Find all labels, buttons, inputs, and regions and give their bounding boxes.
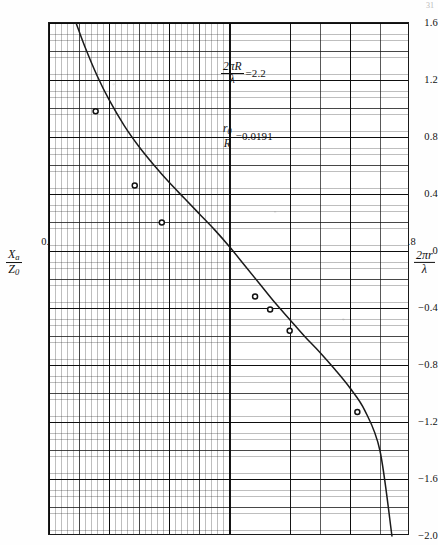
annotation-r0-fraction: r0 R: [221, 123, 234, 149]
plot-area: 2πR λ =2.2 r0 R =0.0191: [48, 22, 409, 535]
y-axis-title-denominator: Z0: [6, 263, 22, 278]
data-point: [159, 220, 164, 225]
measured-points-group: [93, 109, 360, 415]
figure-container: 31 1.61.20.80.40−0.4−0.8−1.2−1.6−2.0 Xa …: [0, 0, 438, 545]
annotation-r0-value: =0.0191: [236, 130, 273, 142]
data-layer: [49, 23, 410, 536]
x-axis-title-denominator: λ: [414, 262, 435, 276]
y-axis-title: Xa Z0: [6, 248, 22, 278]
data-point: [287, 328, 292, 333]
annotation-r0: r0 R =0.0191: [221, 123, 273, 149]
data-point: [93, 109, 98, 114]
annotation-ka-fraction: 2πR λ: [221, 61, 244, 85]
y-axis-title-numerator: Xa: [6, 248, 22, 262]
page-number: 31: [426, 1, 434, 10]
data-point: [355, 410, 360, 415]
theoretical-curve: [76, 23, 392, 536]
annotation-ka-value: =2.2: [246, 67, 266, 79]
data-point: [268, 307, 273, 312]
annotation-ka: 2πR λ =2.2: [221, 61, 266, 85]
x-axis-title: 2πr λ: [414, 249, 435, 275]
data-point: [132, 183, 137, 188]
x-axis-title-numerator: 2πr: [414, 249, 435, 262]
data-point: [253, 294, 258, 299]
